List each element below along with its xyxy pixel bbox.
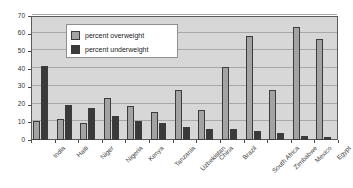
- x-tick-mark-9: [244, 140, 245, 143]
- bar-group: [314, 16, 338, 140]
- bar-mexico-overweight: [293, 27, 300, 140]
- x-tick-label-haiti: Haiti: [75, 145, 89, 159]
- bar-haiti-underweight: [65, 105, 72, 140]
- x-tick-mark-1: [55, 140, 56, 143]
- x-tick-mark-12: [314, 140, 315, 143]
- bar-group: [244, 16, 268, 140]
- bar-nigeria-overweight: [104, 98, 111, 140]
- bar-zimbabwe-underweight: [277, 133, 284, 140]
- bar-niger-overweight: [80, 123, 87, 140]
- x-tick-label-niger: Niger: [100, 145, 116, 161]
- bar-group: [267, 16, 291, 140]
- x-tick-mark-3: [102, 140, 103, 143]
- bar-kenya-overweight: [127, 106, 134, 140]
- x-axis: IndiaHaitiNigerNigeriaKenyaTanzaniaUzbek…: [31, 140, 338, 188]
- x-tick-mark-13: [338, 140, 339, 143]
- bar-group: [220, 16, 244, 140]
- x-tick-label-kenya: Kenya: [148, 145, 166, 163]
- x-tick-label-india: India: [52, 145, 67, 160]
- bar-niger-underweight: [88, 108, 95, 140]
- chart-legend: percent overweightpercent underweight: [66, 24, 178, 58]
- legend-swatch-over: [71, 31, 80, 40]
- y-tick-label-0: 0: [21, 137, 25, 144]
- x-tick-mark-4: [125, 140, 126, 143]
- bar-tanzania-underweight: [159, 123, 166, 140]
- bar-brazil-overweight: [222, 67, 229, 140]
- x-tick-mark-10: [267, 140, 268, 143]
- y-tick-label-30: 30: [18, 83, 25, 90]
- bar-uzbekistan-underweight: [183, 127, 190, 140]
- bar-haiti-overweight: [57, 119, 64, 140]
- legend-item-over: percent overweight: [71, 28, 173, 42]
- bar-kenya-underweight: [135, 121, 142, 140]
- gridline-70: [32, 14, 337, 15]
- legend-item-under: percent underweight: [71, 42, 173, 56]
- x-tick-label-egypt: Egypt: [336, 145, 352, 161]
- x-tick-mark-0: [31, 140, 32, 143]
- bar-group: [31, 16, 55, 140]
- x-tick-mark-11: [291, 140, 292, 143]
- bar-south-africa-underweight: [254, 131, 261, 140]
- bar-uzbekistan-overweight: [175, 90, 182, 140]
- bar-china-underweight: [206, 129, 213, 141]
- bar-south-africa-overweight: [246, 36, 253, 141]
- legend-label: percent underweight: [85, 46, 148, 53]
- y-tick-label-50: 50: [18, 48, 25, 55]
- x-tick-label-brazil: Brazil: [242, 145, 258, 161]
- y-tick-label-60: 60: [18, 30, 25, 37]
- bar-group: [291, 16, 315, 140]
- x-tick-mark-5: [149, 140, 150, 143]
- x-tick-label-tanzania: Tanzania: [174, 145, 197, 168]
- x-tick-label-nigeria: Nigeria: [125, 145, 144, 164]
- y-axis: 010203040506070: [0, 0, 31, 188]
- x-tick-mark-8: [220, 140, 221, 143]
- legend-label: percent overweight: [85, 32, 144, 39]
- bar-china-overweight: [198, 110, 205, 140]
- y-tick-label-70: 70: [18, 13, 25, 20]
- bar-india-overweight: [33, 121, 40, 140]
- y-tick-label-10: 10: [18, 119, 25, 126]
- bar-india-underweight: [41, 66, 48, 140]
- bar-tanzania-overweight: [151, 112, 158, 140]
- y-tick-label-20: 20: [18, 101, 25, 108]
- bar-nigeria-underweight: [112, 116, 119, 140]
- bar-egypt-overweight: [316, 39, 323, 140]
- legend-swatch-under: [71, 45, 80, 54]
- bar-zimbabwe-overweight: [269, 90, 276, 140]
- x-tick-mark-7: [196, 140, 197, 143]
- bar-group: [196, 16, 220, 140]
- y-tick-label-40: 40: [18, 66, 25, 73]
- x-tick-mark-6: [173, 140, 174, 143]
- bar-brazil-underweight: [230, 129, 237, 140]
- x-tick-mark-2: [78, 140, 79, 143]
